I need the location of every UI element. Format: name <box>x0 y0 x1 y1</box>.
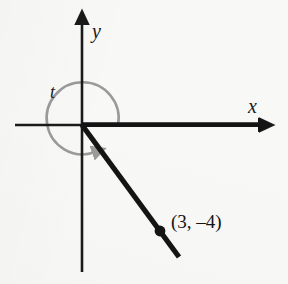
terminal-side-ray <box>82 125 179 257</box>
angle-diagram-svg: y x t (3, –4) <box>0 0 288 284</box>
y-axis-label: y <box>90 20 101 43</box>
angle-label-t: t <box>50 82 56 102</box>
x-axis-label: x <box>247 95 257 117</box>
point-coordinate-label: (3, –4) <box>171 211 222 233</box>
terminal-point-marker <box>155 226 166 237</box>
initial-side-ray <box>82 118 272 133</box>
trigonometry-angle-figure: y x t (3, –4) <box>0 0 288 284</box>
